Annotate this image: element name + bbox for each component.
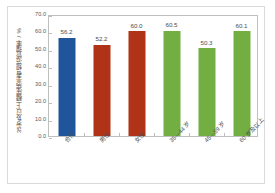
bar-slot: 60.0 [119,16,154,136]
y-axis-tick-mark [49,33,52,34]
x-axis-tick-mark [189,133,190,136]
bar-value-label: 50.3 [200,40,212,46]
bar-slot: 56.2 [49,16,84,136]
bar-value-label: 60.0 [130,23,142,29]
y-axis-tick-label: 20.0 [35,99,46,105]
bars-layer: 56.252.260.060.550.360.1 [49,16,257,136]
bar[interactable] [58,38,75,136]
y-axis-tick-mark [49,68,52,69]
bar-slot: 52.2 [84,16,119,136]
y-axis-tick-mark [49,86,52,87]
plot-area: 56.252.260.060.550.360.1 [48,15,258,137]
y-axis-tick-mark [49,16,52,17]
x-axis-tick-labels: 合计男性女性35—44 岁45—59 岁60 岁及以上 [48,138,258,184]
y-axis-tick-mark [49,121,52,122]
y-axis-tick-label: 40.0 [35,64,46,70]
bar-value-label: 60.5 [165,22,177,28]
bar-slot: 60.5 [154,16,189,136]
x-axis-tick-mark [84,133,85,136]
x-axis-tick-mark [154,133,155,136]
x-axis-tick-mark [119,133,120,136]
y-axis-title-text: 35岁及以上糖尿病患者规范管理率 / % [16,28,22,133]
bar[interactable] [163,31,180,136]
y-axis-tick-label: 0.0 [38,134,46,140]
bar-value-label: 60.1 [235,23,247,29]
bar-value-label: 56.2 [60,29,72,35]
bar[interactable] [233,31,250,136]
y-axis-tick-label: 10.0 [35,117,46,123]
bar-slot: 60.1 [224,16,259,136]
y-axis-tick-label: 60.0 [35,30,46,36]
bar-value-label: 52.2 [95,36,107,42]
bar[interactable] [93,45,110,136]
bar[interactable] [198,48,215,136]
y-axis-tick-labels: 0.010.020.030.040.050.060.070.0 [24,15,46,137]
x-axis-tick-mark [224,133,225,136]
y-axis-tick-label: 70.0 [35,12,46,18]
y-axis-tick-label: 50.0 [35,47,46,53]
y-axis-tick-mark [49,51,52,52]
bar[interactable] [128,31,145,136]
y-axis-tick-label: 30.0 [35,82,46,88]
chart-figure: 35岁及以上糖尿病患者规范管理率 / % 0.010.020.030.040.0… [7,6,265,184]
bar-slot: 50.3 [189,16,224,136]
y-axis-tick-mark [49,103,52,104]
